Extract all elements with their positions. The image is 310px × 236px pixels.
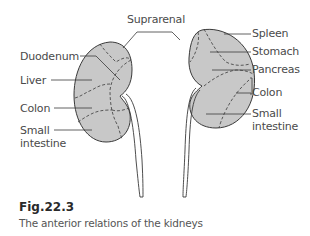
label-stomach: Stomach (252, 46, 299, 58)
suprarenal-leaders (123, 32, 180, 48)
label-colon-right: Colon (20, 103, 50, 115)
label-duodenum: Duodenum (20, 51, 79, 63)
label-small-intestine-left-2: intestine (252, 121, 298, 133)
figure-number: Fig.22.3 (19, 200, 74, 214)
right-kidney (74, 42, 143, 197)
figure-caption: The anterior relations of the kidneys (19, 217, 203, 229)
label-small-intestine-left-1: Small (252, 108, 282, 120)
label-colon-left: Colon (252, 87, 282, 99)
label-liver: Liver (20, 75, 46, 87)
label-suprarenal: Suprarenal (127, 14, 185, 26)
label-pancreas: Pancreas (252, 64, 300, 76)
label-small-intestine-right-1: Small (20, 125, 50, 137)
label-spleen: Spleen (252, 28, 288, 40)
label-small-intestine-right-2: intestine (20, 138, 66, 150)
left-kidney (183, 29, 255, 197)
